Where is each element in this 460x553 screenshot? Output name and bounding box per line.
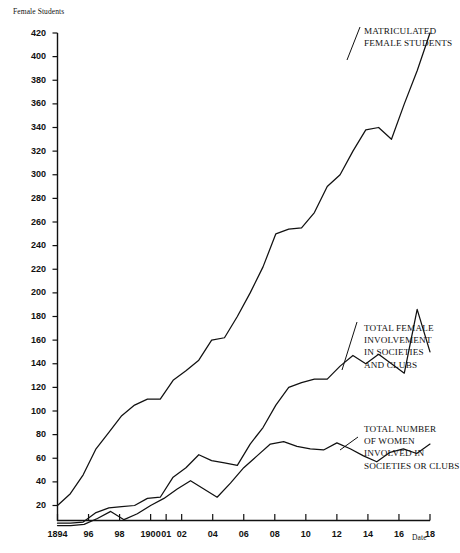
- y-axis-tick-label: 40: [18, 477, 46, 486]
- y-axis-tick-label: 340: [18, 123, 46, 132]
- y-axis-tick-label: 20: [18, 501, 46, 510]
- x-axis-ticks: [58, 514, 431, 521]
- series-label-total-female-involvement: TOTAL FEMALE INVOLVEMENT IN SOCIETIES AN…: [364, 322, 434, 371]
- y-axis-tick-label: 140: [18, 359, 46, 368]
- y-axis-tick-label: 400: [18, 52, 46, 61]
- y-axis-tick-label: 160: [18, 336, 46, 345]
- y-axis-title: Female Students: [13, 7, 64, 16]
- y-axis-tick-label: 380: [18, 76, 46, 85]
- x-axis-tick-label: 18: [410, 530, 450, 539]
- series-label-total-number-of-women: TOTAL NUMBER OF WOMEN INVOLVED IN SOCIET…: [364, 423, 460, 472]
- leader-line-total-involvement: [342, 322, 357, 370]
- y-axis-tick-label: 320: [18, 147, 46, 156]
- y-axis-tick-label: 80: [18, 430, 46, 439]
- leader-line-matriculated: [347, 27, 360, 60]
- y-axis-tick-label: 240: [18, 241, 46, 250]
- y-axis-tick-label: 200: [18, 288, 46, 297]
- series-label-matriculated: MATRICULATED FEMALE STUDENTS: [364, 25, 452, 49]
- y-axis-ticks: [53, 33, 58, 506]
- y-axis-tick-label: 420: [18, 29, 46, 38]
- y-axis-tick-label: 260: [18, 218, 46, 227]
- y-axis-tick-label: 360: [18, 99, 46, 108]
- y-axis-tick-label: 280: [18, 194, 46, 203]
- y-axis-tick-label: 180: [18, 312, 46, 321]
- y-axis-tick-label: 100: [18, 407, 46, 416]
- y-axis-tick-label: 300: [18, 170, 46, 179]
- annotation-leader-lines: [340, 27, 360, 450]
- y-axis-tick-label: 120: [18, 383, 46, 392]
- y-axis-tick-label: 220: [18, 265, 46, 274]
- y-axis-tick-label: 60: [18, 454, 46, 463]
